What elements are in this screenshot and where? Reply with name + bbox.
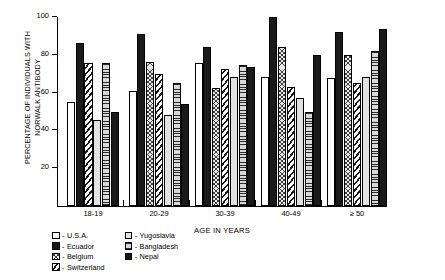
x-axis-line <box>57 206 387 207</box>
bar-switzerland <box>287 87 295 206</box>
bar-nepal <box>313 55 321 206</box>
legend-swatch-icon <box>52 253 60 261</box>
x-axis-group-separator-tick <box>189 200 190 206</box>
legend-label: Switzerland <box>67 263 105 272</box>
legend-column: -Yugoslavia-Bangladesh-Nepal <box>125 231 178 272</box>
bar-nepal <box>247 67 255 206</box>
bar-u-s-a <box>327 78 335 206</box>
legend-item-ecuador: -Ecuador <box>52 242 105 251</box>
legend-dash: - <box>135 252 137 261</box>
legend-label: Ecuador <box>67 242 94 251</box>
bar-bangladesh <box>305 112 313 207</box>
y-axis-tick-label: 20 <box>41 162 49 171</box>
bar-bangladesh <box>173 83 181 206</box>
bar-yugoslavia <box>164 115 172 206</box>
y-axis-title: PERCENTAGE OF INDIVIDUALS WITH NORWALK A… <box>23 3 42 193</box>
legend-item-nepal: -Nepal <box>125 252 178 261</box>
bar-bangladesh <box>239 65 247 206</box>
legend-swatch-icon <box>52 263 60 271</box>
bar-nepal <box>379 29 387 206</box>
bar-switzerland <box>155 74 163 206</box>
legend-dash: - <box>62 263 64 272</box>
x-axis-group-separator-tick <box>255 200 256 206</box>
bar-group <box>129 17 190 206</box>
y-axis-tick-label: 60 <box>41 87 49 96</box>
y-axis-tick-label: 100 <box>36 11 49 20</box>
bar-bangladesh <box>371 51 379 206</box>
legend-item-yugoslavia: -Yugoslavia <box>125 231 178 240</box>
bar-switzerland <box>221 69 229 206</box>
bar-belgium <box>278 47 286 206</box>
bar-ecuador <box>76 43 84 206</box>
bar-yugoslavia <box>93 120 101 206</box>
legend-column: -U.S.A.-Ecuador-Belgium-Switzerland <box>52 231 105 272</box>
y-axis-tick: 40 <box>52 129 57 130</box>
legend-swatch-icon <box>52 232 60 240</box>
y-axis-title-container: PERCENTAGE OF INDIVIDUALS WITH NORWALK A… <box>0 0 40 210</box>
legend-item-belgium: -Belgium <box>52 252 105 261</box>
bar-bangladesh <box>102 63 110 206</box>
bar-ecuador <box>137 34 145 206</box>
legend-swatch-icon <box>125 253 133 261</box>
plot-area: 20406080100 18-1920-2930-3940-49≥ 50 <box>57 17 387 207</box>
legend-swatch-icon <box>125 242 133 250</box>
legend-dash: - <box>135 242 137 251</box>
bar-switzerland <box>84 63 92 206</box>
bar-u-s-a <box>261 77 269 206</box>
legend-item-bangladesh: -Bangladesh <box>125 242 178 251</box>
bar-u-s-a <box>129 91 137 206</box>
bar-ecuador <box>335 32 343 206</box>
legend-label: Nepal <box>140 252 159 261</box>
bar-belgium <box>146 62 154 206</box>
bar-yugoslavia <box>230 77 238 206</box>
bar-ecuador <box>269 17 277 206</box>
bar-group <box>261 17 322 206</box>
bar-nepal <box>181 104 189 206</box>
bar-ecuador <box>203 47 211 206</box>
y-axis-tick: 80 <box>52 54 57 55</box>
bar-u-s-a <box>195 63 203 206</box>
legend-dash: - <box>62 252 64 261</box>
bar-belgium <box>344 55 352 206</box>
y-axis-tick: 20 <box>52 167 57 168</box>
y-axis-tick: 60 <box>52 92 57 93</box>
bar-belgium <box>212 88 220 206</box>
bar-yugoslavia <box>362 77 370 206</box>
legend-swatch-icon <box>52 242 60 250</box>
bar-nepal <box>111 112 119 207</box>
x-axis-tick-label: ≥ 50 <box>315 209 400 218</box>
bar-group <box>195 17 256 206</box>
bar-group <box>67 17 119 206</box>
legend-label: Yugoslavia <box>140 231 175 240</box>
y-axis-line <box>57 17 58 207</box>
legend-label: U.S.A. <box>67 231 88 240</box>
legend-item-u-s-a: -U.S.A. <box>52 231 105 240</box>
legend-dash: - <box>62 242 64 251</box>
bar-group <box>327 17 388 206</box>
legend-swatch-icon <box>125 232 133 240</box>
bar-yugoslavia <box>296 98 304 206</box>
bar-u-s-a <box>67 102 75 206</box>
legend-dash: - <box>62 231 64 240</box>
y-axis-tick-label: 40 <box>41 124 49 133</box>
y-axis-tick: 100 <box>52 16 57 17</box>
legend-dash: - <box>135 231 137 240</box>
legend-label: Bangladesh <box>140 242 179 251</box>
y-axis-tick-label: 80 <box>41 49 49 58</box>
x-axis-group-separator-tick <box>321 200 322 206</box>
norwalk-antibody-bar-chart: PERCENTAGE OF INDIVIDUALS WITH NORWALK A… <box>0 0 445 280</box>
bar-switzerland <box>353 83 361 206</box>
legend-item-switzerland: -Switzerland <box>52 263 105 272</box>
legend: -U.S.A.-Ecuador-Belgium-Switzerland-Yugo… <box>52 231 178 272</box>
legend-label: Belgium <box>67 252 93 261</box>
x-axis-group-separator-tick <box>123 200 124 206</box>
